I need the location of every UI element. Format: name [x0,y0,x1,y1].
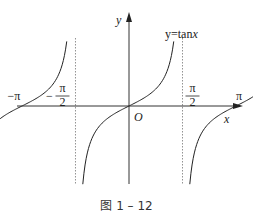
origin-label: O [134,110,143,124]
x-axis-label: x [223,112,230,126]
tick-label-denominator: 2 [59,95,65,109]
tan-curves [0,41,253,184]
branch-center [83,41,174,184]
function-label: y=tanx [165,27,198,41]
tick-labels: −3π2−π−π2π2π3π2 [0,81,253,109]
y-axis-arrow [126,12,132,22]
figure-caption: 图 1 – 12 [0,196,253,213]
tick-label: −π [8,89,21,103]
tick-label-numerator: π [59,81,65,95]
tick-label-denominator: 2 [190,95,196,109]
branch-right [190,41,253,184]
x-axis-arrow [233,103,243,109]
branch-left [0,41,67,184]
tick-label-sign: − [46,89,53,103]
y-axis-label: y [115,13,122,27]
tan-graph: y x O y=tanx −3π2−π−π2π2π3π2 [0,0,253,220]
tick-label-numerator: π [189,81,195,95]
asymptotes [0,38,253,184]
tick-label: π [236,89,242,103]
